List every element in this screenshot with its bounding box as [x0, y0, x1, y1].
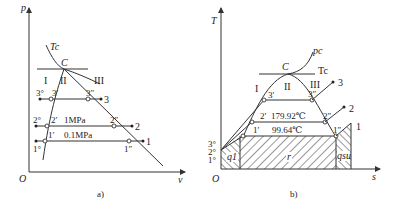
point-2-sat-liquid: 2′ — [51, 115, 58, 125]
origin-label: O — [19, 173, 26, 184]
point-3-sat-liquid: 3′ — [52, 88, 59, 98]
t-axis-label: T — [211, 15, 218, 26]
region-label-II: II — [284, 81, 291, 92]
point-3-sat-liquid: 3′ — [268, 90, 275, 100]
caption-b: b) — [290, 189, 298, 199]
point-1: 1 — [356, 121, 361, 132]
s-axis-label: s — [372, 171, 376, 182]
point-2-sat-vapor: 2″ — [110, 115, 119, 125]
point-1-liquid: 1° — [33, 144, 42, 154]
ts-diagram: T s O pc Tc C 3 3′ 3″ 2 2′ 179.92℃ 2 — [208, 8, 380, 199]
caption-a: a) — [97, 189, 104, 199]
point-1-sat-liquid: 1′ — [253, 125, 260, 135]
tc-label: Tc — [50, 41, 60, 52]
region-label-II: II — [60, 75, 67, 86]
qsu-label: qsu — [337, 150, 351, 161]
critical-isobar — [288, 52, 313, 74]
pc-label: pc — [312, 45, 323, 56]
v-axis-label: v — [178, 174, 183, 185]
q1-label: q1 — [226, 151, 238, 162]
point-2: 2 — [349, 103, 354, 114]
r-label: r — [286, 151, 292, 162]
svg-text:qsu: qsu — [337, 150, 351, 161]
point-1-sat-vapor: 1″ — [124, 144, 133, 154]
point-2-liquid: 2° — [33, 115, 42, 125]
critical-point-label: C — [61, 57, 68, 68]
isobar-1-pressure: 0.1MPa — [64, 130, 92, 140]
region-label-III: III — [310, 79, 320, 90]
point-2-sat-liquid: 2′ — [260, 111, 267, 121]
point-3: 3 — [104, 94, 109, 105]
svg-text:q1: q1 — [227, 151, 237, 162]
pv-ts-diagrams: p v O Tc C I II III 3° 3′ 3″ 3 2° 2′ — [0, 0, 395, 213]
p-axis-label: p — [20, 2, 26, 13]
point-3: 3 — [338, 77, 343, 88]
tc-label: Tc — [318, 65, 328, 76]
svg-text:r: r — [287, 151, 291, 162]
point-1-sat-liquid: 1′ — [48, 130, 55, 140]
point-1-sat-vapor: 1″ — [333, 125, 342, 135]
region-label-I: I — [255, 83, 258, 94]
critical-point-label: C — [282, 61, 289, 72]
pv-diagram: p v O Tc C I II III 3° 3′ 3″ 3 2° 2′ — [19, 2, 185, 199]
isotherm-1-temp: 99.64℃ — [272, 125, 302, 135]
point-2: 2 — [135, 121, 140, 132]
point-3-sat-vapor: 3″ — [308, 89, 317, 99]
point-2-sat-vapor: 2″ — [323, 111, 332, 121]
region-label-I: I — [44, 75, 47, 86]
origin-label: O — [212, 173, 219, 184]
point-1-liquid: 1° — [208, 155, 217, 165]
region-label-III: III — [94, 75, 104, 86]
isobar-2-pressure: 1MPa — [64, 115, 86, 125]
isotherm-2-temp: 179.92℃ — [271, 111, 306, 121]
point-3-liquid: 3° — [36, 88, 45, 98]
point-1: 1 — [146, 136, 151, 147]
point-3-sat-vapor: 3″ — [86, 88, 95, 98]
